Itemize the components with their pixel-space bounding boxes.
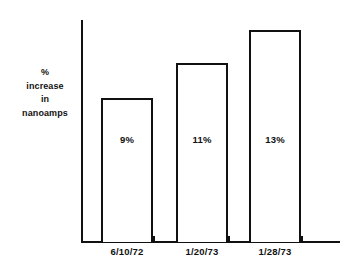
plot-area: 9%6/10/7211%1/20/7313%1/28/73	[0, 0, 353, 269]
x-axis-tick-2	[176, 236, 178, 243]
x-axis-tick-secondary-1	[153, 236, 155, 243]
x-axis-tick-1	[101, 236, 103, 243]
bar-2	[176, 63, 228, 242]
bar-1	[101, 98, 153, 242]
x-axis-category-label-3: 1/28/73	[244, 246, 306, 257]
x-axis-tick-3	[249, 236, 251, 243]
x-axis-category-label-2: 1/20/73	[171, 246, 233, 257]
bar-chart: % increase in nanoamps 9%6/10/7211%1/20/…	[0, 0, 353, 269]
bar-value-label-3: 13%	[249, 134, 301, 145]
bar-value-label-1: 9%	[101, 134, 153, 145]
bar-value-label-2: 11%	[176, 134, 228, 145]
x-axis-category-label-1: 6/10/72	[96, 246, 158, 257]
x-axis-tick-secondary-3	[301, 236, 303, 243]
x-axis-tick-secondary-2	[228, 236, 230, 243]
